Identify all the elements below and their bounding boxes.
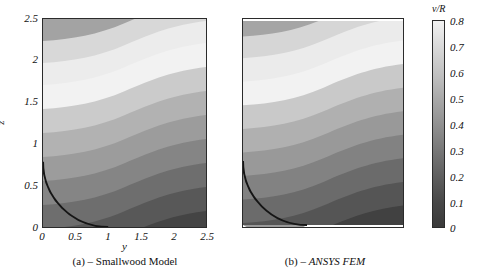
figure-root: 0 0.5 1 1.5 2 2.5 z 0 0.5 1 1.5 2 2.5 y	[0, 0, 484, 273]
xtick-smallwood-0: 0	[30, 231, 54, 242]
axis-label-z: z	[0, 120, 6, 124]
colorbar-tick-01: 0.1	[450, 198, 464, 209]
colorbar-tick-03: 0.3	[450, 146, 464, 157]
colorbar-tick-08: 0.8	[450, 16, 464, 27]
caption-smallwood-text: Smallwood Model	[96, 255, 178, 267]
colorbar-tick-05: 0.5	[450, 94, 464, 105]
colorbar-tick-02: 0.2	[450, 172, 464, 183]
xtick-smallwood-05: 0.5	[63, 231, 87, 242]
colorbar-tick-0: 0	[450, 223, 456, 234]
axis-label-y: y	[122, 241, 127, 252]
caption-ansys: (b) – ANSYS FEM	[250, 255, 400, 267]
contour-bands-smallwood	[43, 19, 206, 227]
xtick-smallwood-1: 1	[96, 231, 120, 242]
contour-panel-ansys	[242, 18, 404, 228]
caption-smallwood: (a) – Smallwood Model	[50, 255, 200, 267]
ytick-smallwood-1: 1	[10, 138, 38, 149]
contour-panel-smallwood	[42, 18, 207, 228]
caption-ansys-text: ANSYS FEM	[309, 255, 366, 267]
colorbar-gradient	[432, 20, 445, 228]
xtick-smallwood-2: 2	[162, 231, 186, 242]
xtick-smallwood-15: 1.5	[129, 231, 153, 242]
colorbar-tick-07: 0.7	[450, 42, 464, 53]
xtick-smallwood-25: 2.5	[195, 231, 219, 242]
ytick-smallwood-25: 2.5	[10, 13, 38, 24]
contour-plot-smallwood-svg	[43, 19, 206, 227]
ytick-smallwood-15: 1.5	[10, 96, 38, 107]
caption-smallwood-prefix: (a) –	[73, 255, 96, 267]
ytick-smallwood-05: 0.5	[10, 180, 38, 191]
contour-plot-ansys-svg	[243, 19, 403, 227]
colorbar-title: v/R	[432, 4, 445, 14]
caption-ansys-prefix: (b) –	[285, 255, 309, 267]
contour-bands-ansys	[243, 19, 403, 227]
colorbar-tick-04: 0.4	[450, 120, 464, 131]
colorbar-tick-06: 0.6	[450, 68, 464, 79]
ytick-smallwood-2: 2	[10, 54, 38, 65]
